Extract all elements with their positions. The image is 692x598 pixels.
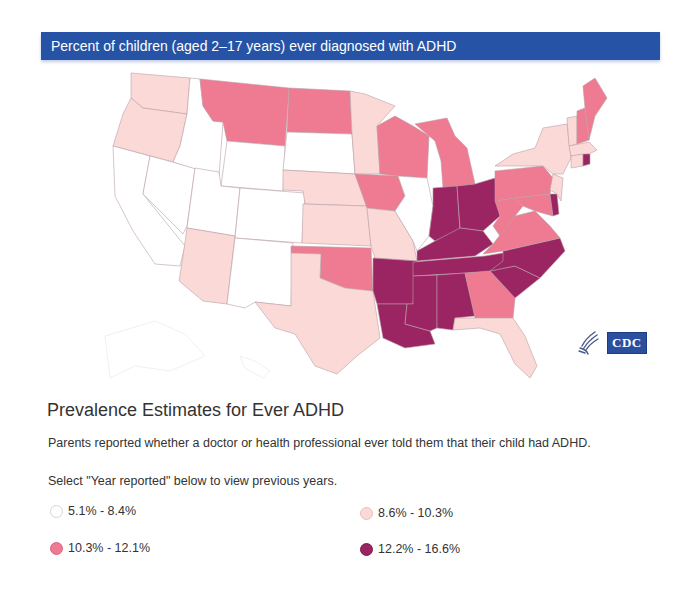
us-choropleth-map <box>95 66 615 386</box>
state-NY[interactable] <box>495 124 571 174</box>
us-map-svg <box>95 66 615 386</box>
state-AR[interactable] <box>373 258 417 304</box>
cdc-logo: CDC <box>575 330 647 356</box>
state-VT[interactable] <box>567 116 577 146</box>
state-ND[interactable] <box>287 88 352 134</box>
legend-item-bin-2: 8.6% - 10.3% <box>360 506 453 520</box>
legend-label: 8.6% - 10.3% <box>378 506 453 520</box>
legend-label: 12.2% - 16.6% <box>378 542 460 556</box>
hhs-eagle-icon <box>575 330 601 356</box>
legend-label: 10.3% - 12.1% <box>68 541 150 555</box>
legend-item-bin-4: 12.2% - 16.6% <box>360 542 460 556</box>
state-FL[interactable] <box>453 318 537 378</box>
cdc-text: CDC <box>607 332 647 354</box>
state-CT[interactable] <box>571 154 583 168</box>
legend-item-bin-1: 5.1% - 8.4% <box>50 504 136 518</box>
state-KS[interactable] <box>302 204 371 246</box>
state-SD[interactable] <box>283 132 355 174</box>
state-NM[interactable] <box>227 238 293 308</box>
state-AK[interactable] <box>105 321 205 378</box>
state-AZ[interactable] <box>179 228 235 304</box>
state-WY[interactable] <box>221 141 285 191</box>
legend-swatch-icon <box>360 507 373 520</box>
legend-label: 5.1% - 8.4% <box>68 504 136 518</box>
state-OH[interactable] <box>457 178 500 231</box>
state-HI[interactable] <box>240 356 270 378</box>
legend-swatch-icon <box>360 543 373 556</box>
legend-swatch-icon <box>50 505 63 518</box>
legend-swatch-icon <box>50 542 63 555</box>
year-note-text: Select "Year reported" below to view pre… <box>48 474 337 488</box>
legend-item-bin-3: 10.3% - 12.1% <box>50 541 150 555</box>
description-text: Parents reported whether a doctor or hea… <box>48 436 591 450</box>
map-title-bar: Percent of children (aged 2–17 years) ev… <box>41 32 660 60</box>
map-title: Percent of children (aged 2–17 years) ev… <box>51 38 456 54</box>
state-RI[interactable] <box>583 154 590 166</box>
state-CO[interactable] <box>235 188 305 243</box>
section-title: Prevalence Estimates for Ever ADHD <box>47 400 344 421</box>
